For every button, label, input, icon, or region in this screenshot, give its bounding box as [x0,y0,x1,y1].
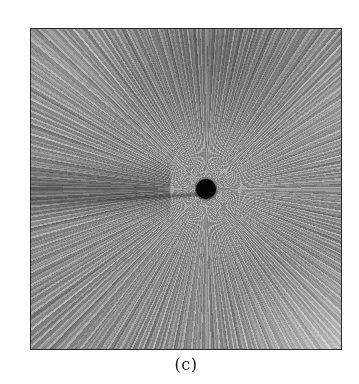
panel-label: (c) [0,355,359,374]
figure-panel: (c) [0,0,359,384]
radial-streak-image [30,28,342,350]
tonal-shading [31,29,341,349]
center-dot [196,179,216,199]
